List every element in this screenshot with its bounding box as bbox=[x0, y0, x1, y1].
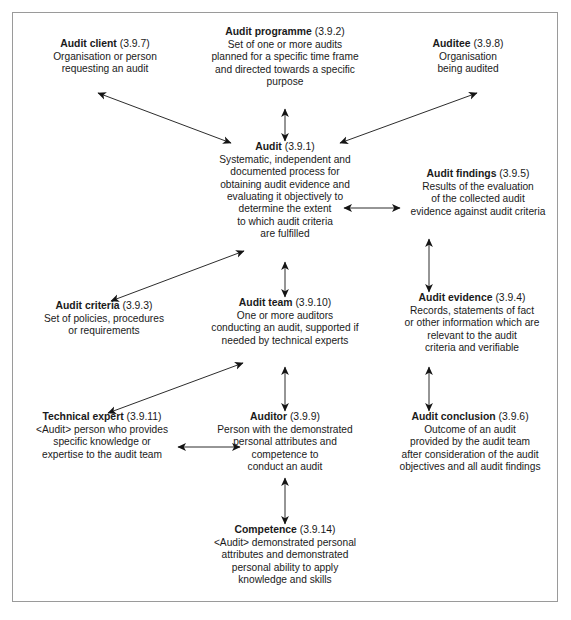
node-ref: (3.9.14) bbox=[300, 524, 336, 535]
node-title: Audit conclusion (3.9.6) bbox=[380, 411, 560, 424]
node-audit-team[interactable]: Audit team (3.9.10) One or more auditors… bbox=[190, 297, 380, 347]
node-title: Audit programme (3.9.2) bbox=[190, 26, 380, 39]
node-audit[interactable]: Audit (3.9.1) Systematic, independent an… bbox=[186, 141, 384, 241]
node-ref: (3.9.8) bbox=[473, 38, 503, 49]
node-audit-client[interactable]: Audit client (3.9.7) Organisation or per… bbox=[22, 38, 188, 76]
node-title: Technical expert (3.9.11) bbox=[16, 411, 188, 424]
node-term: Audit team bbox=[239, 297, 293, 308]
node-title: Audit client (3.9.7) bbox=[22, 38, 188, 51]
node-ref: (3.9.5) bbox=[499, 168, 529, 179]
node-auditee[interactable]: Auditee (3.9.8) Organisation being audit… bbox=[398, 38, 538, 76]
node-term: Audit findings bbox=[427, 168, 497, 179]
node-ref: (3.9.4) bbox=[495, 292, 525, 303]
node-ref: (3.9.10) bbox=[295, 297, 331, 308]
node-ref: (3.9.9) bbox=[290, 411, 320, 422]
node-description: Records, statements of fact or other inf… bbox=[384, 305, 560, 355]
node-term: Audit criteria bbox=[55, 300, 119, 311]
node-competence[interactable]: Competence (3.9.14) <Audit> demonstrated… bbox=[184, 524, 386, 586]
node-title: Competence (3.9.14) bbox=[184, 524, 386, 537]
node-ref: (3.9.7) bbox=[120, 38, 150, 49]
node-term: Competence bbox=[234, 524, 296, 535]
node-auditor[interactable]: Auditor (3.9.9) Person with the demonstr… bbox=[192, 411, 378, 473]
node-title: Audit team (3.9.10) bbox=[190, 297, 380, 310]
node-description: One or more auditors conducting an audit… bbox=[190, 310, 380, 347]
node-audit-programme[interactable]: Audit programme (3.9.2) Set of one or mo… bbox=[190, 26, 380, 88]
node-ref: (3.9.3) bbox=[122, 300, 152, 311]
node-ref: (3.9.2) bbox=[315, 26, 345, 37]
node-description: Set of one or more audits planned for a … bbox=[190, 39, 380, 89]
node-audit-conclusion[interactable]: Audit conclusion (3.9.6) Outcome of an a… bbox=[380, 411, 560, 473]
node-title: Audit findings (3.9.5) bbox=[396, 168, 560, 181]
node-term: Audit bbox=[255, 141, 282, 152]
node-term: Auditor bbox=[250, 411, 287, 422]
node-description: <Audit> demonstrated personal attributes… bbox=[184, 537, 386, 587]
node-term: Audit conclusion bbox=[411, 411, 495, 422]
node-audit-criteria[interactable]: Audit criteria (3.9.3) Set of policies, … bbox=[20, 300, 188, 338]
node-technical-expert[interactable]: Technical expert (3.9.11) <Audit> person… bbox=[16, 411, 188, 461]
node-description: Outcome of an audit provided by the audi… bbox=[380, 424, 560, 474]
node-term: Audit programme bbox=[225, 26, 312, 37]
node-description: Person with the demonstrated personal at… bbox=[192, 424, 378, 474]
node-ref: (3.9.11) bbox=[127, 411, 162, 422]
node-description: Results of the evaluation of the collect… bbox=[396, 181, 560, 218]
node-audit-findings[interactable]: Audit findings (3.9.5) Results of the ev… bbox=[396, 168, 560, 218]
node-term: Auditee bbox=[432, 38, 470, 49]
node-audit-evidence[interactable]: Audit evidence (3.9.4) Records, statemen… bbox=[384, 292, 560, 354]
node-ref: (3.9.1) bbox=[285, 141, 315, 152]
node-title: Auditor (3.9.9) bbox=[192, 411, 378, 424]
node-term: Audit evidence bbox=[419, 292, 493, 303]
node-description: Organisation being audited bbox=[398, 51, 538, 76]
diagram-page: Audit client (3.9.7) Organisation or per… bbox=[0, 0, 571, 620]
node-term: Technical expert bbox=[42, 411, 123, 422]
node-title: Audit (3.9.1) bbox=[186, 141, 384, 154]
node-description: <Audit> person who provides specific kno… bbox=[16, 424, 188, 461]
node-description: Systematic, independent and documented p… bbox=[186, 154, 384, 241]
node-description: Set of policies, procedures or requireme… bbox=[20, 313, 188, 338]
node-title: Audit evidence (3.9.4) bbox=[384, 292, 560, 305]
node-term: Audit client bbox=[60, 38, 117, 49]
node-ref: (3.9.6) bbox=[499, 411, 529, 422]
node-description: Organisation or person requesting an aud… bbox=[22, 51, 188, 76]
node-title: Audit criteria (3.9.3) bbox=[20, 300, 188, 313]
node-title: Auditee (3.9.8) bbox=[398, 38, 538, 51]
